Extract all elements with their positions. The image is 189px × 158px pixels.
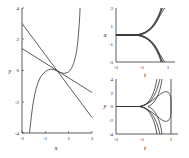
- br-xtick-neg1: -1: [140, 137, 145, 142]
- left-ytick-neg2: -2: [15, 100, 20, 105]
- tr-xtick-neg3: -3: [114, 65, 119, 70]
- left-plot: 4 2 0 -2 -4 -3 -1 1 3 x y: [7, 6, 93, 152]
- tr-ytick-3: 3: [111, 6, 114, 11]
- br-xlabel: t: [144, 144, 147, 152]
- left-xtick-neg1: -1: [43, 136, 48, 141]
- shallow-line: [22, 49, 92, 93]
- br-ytick-2: 2: [111, 91, 114, 96]
- left-ytick-2: 2: [17, 37, 20, 42]
- left-ylabel: y: [7, 67, 12, 75]
- br-ylabel: y: [102, 102, 107, 110]
- left-xlabel: x: [53, 144, 58, 152]
- top-right-plot: 3 1 -1 -3 -3 -1 1 t x: [102, 6, 175, 79]
- left-xtick-3: 3: [91, 136, 94, 141]
- tr-xlabel: t: [144, 71, 147, 79]
- br-ytick-neg2: -2: [109, 118, 114, 123]
- tr-ytick-1: 1: [111, 24, 114, 29]
- br-trajectories: [116, 79, 171, 134]
- tr-ylabel: x: [102, 31, 107, 39]
- tr-xtick-neg1: -1: [140, 65, 145, 70]
- tr-ytick-neg1: -1: [109, 42, 114, 47]
- bottom-right-plot: 4 2 0 -2 -4 -3 -1 1 t y: [102, 77, 178, 152]
- br-ytick-0: 0: [111, 104, 114, 109]
- tr-xtick-1: 1: [167, 65, 170, 70]
- left-xtick-1: 1: [67, 136, 70, 141]
- br-ytick-4: 4: [111, 77, 114, 82]
- cubic-curve: [30, 8, 81, 133]
- figure: 4 2 0 -2 -4 -3 -1 1 3 x y 3 1 -1 -3 -3 -…: [0, 0, 189, 158]
- left-ytick-neg4: -4: [15, 131, 20, 136]
- br-xtick-1: 1: [170, 137, 173, 142]
- left-ytick-0: 0: [17, 68, 20, 73]
- tr-ytick-neg3: -3: [109, 60, 114, 65]
- br-xtick-neg3: -3: [114, 137, 119, 142]
- br-ytick-neg4: -4: [109, 132, 114, 137]
- left-ytick-4: 4: [17, 6, 20, 11]
- tr-trajectories: [116, 8, 165, 62]
- left-xtick-neg3: -3: [20, 136, 25, 141]
